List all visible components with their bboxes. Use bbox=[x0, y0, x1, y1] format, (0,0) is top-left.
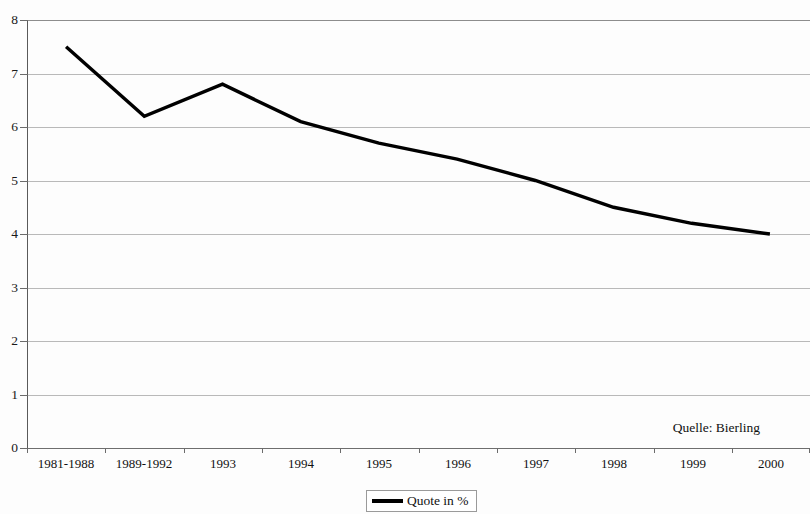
y-tick-6 bbox=[20, 127, 28, 128]
y-axis-label-6: 6 bbox=[0, 120, 18, 134]
y-axis-label-5: 5 bbox=[0, 174, 18, 188]
x-axis-label-1989-1992: 1989-1992 bbox=[104, 456, 184, 472]
y-axis-label-8: 8 bbox=[0, 13, 18, 27]
y-axis-label-7: 7 bbox=[0, 67, 18, 81]
x-axis-label-1999: 1999 bbox=[653, 456, 733, 472]
x-tick-7 bbox=[575, 448, 576, 453]
y-axis-label-2: 2 bbox=[0, 334, 18, 348]
y-tick-7 bbox=[20, 74, 28, 75]
source-note: Quelle: Bierling bbox=[673, 420, 760, 436]
x-axis-label-1993: 1993 bbox=[183, 456, 263, 472]
x-tick-0 bbox=[27, 448, 28, 453]
chart-legend: Quote in % bbox=[366, 490, 477, 512]
gridline-3 bbox=[27, 288, 810, 289]
y-tick-4 bbox=[20, 234, 28, 235]
y-axis-label-1: 1 bbox=[0, 388, 18, 402]
y-axis-label-0: 0 bbox=[0, 441, 18, 455]
plot-area bbox=[27, 20, 810, 448]
legend-line-swatch bbox=[372, 499, 403, 503]
x-tick-2 bbox=[184, 448, 185, 453]
line-chart: 8 7 6 5 4 3 2 1 0 1981-1988 1989-1992 19… bbox=[0, 0, 810, 514]
y-tick-8 bbox=[20, 20, 28, 21]
x-tick-4 bbox=[340, 448, 341, 453]
y-axis-label-3: 3 bbox=[0, 281, 18, 295]
x-tick-9 bbox=[732, 448, 733, 453]
x-axis-label-2000: 2000 bbox=[731, 456, 810, 472]
x-tick-8 bbox=[654, 448, 655, 453]
gridline-2 bbox=[27, 341, 810, 342]
y-tick-3 bbox=[20, 288, 28, 289]
gridline-1 bbox=[27, 395, 810, 396]
x-axis-label-1994: 1994 bbox=[261, 456, 341, 472]
x-tick-3 bbox=[262, 448, 263, 453]
y-axis-label-4: 4 bbox=[0, 227, 18, 241]
x-axis-label-1995: 1995 bbox=[339, 456, 419, 472]
gridline-7 bbox=[27, 74, 810, 75]
x-axis-label-1996: 1996 bbox=[418, 456, 498, 472]
x-tick-5 bbox=[419, 448, 420, 453]
y-tick-1 bbox=[20, 395, 28, 396]
legend-entry-label: Quote in % bbox=[407, 493, 469, 508]
x-tick-1 bbox=[105, 448, 106, 453]
x-axis-label-1997: 1997 bbox=[496, 456, 576, 472]
gridline-8 bbox=[27, 20, 810, 21]
x-axis-label-1998: 1998 bbox=[574, 456, 654, 472]
x-axis-label-1981-1988: 1981-1988 bbox=[26, 456, 106, 472]
y-tick-2 bbox=[20, 341, 28, 342]
gridline-6 bbox=[27, 127, 810, 128]
y-tick-5 bbox=[20, 181, 28, 182]
gridline-5 bbox=[27, 181, 810, 182]
gridline-4 bbox=[27, 234, 810, 235]
x-tick-6 bbox=[497, 448, 498, 453]
